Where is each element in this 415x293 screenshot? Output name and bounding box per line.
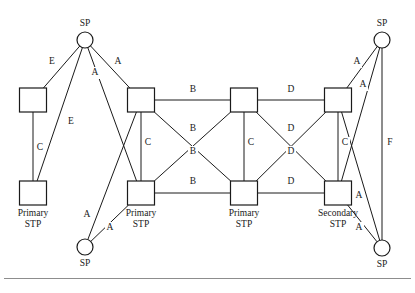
node-label-stp_a_bot: Primary bbox=[126, 208, 157, 218]
link-label-l_e2: E bbox=[68, 116, 74, 126]
node-label-sp_top_right: SP bbox=[377, 18, 388, 28]
network-diagram: EECAAAABBBBCCCDDDDAAAAF SPSPSPSPPrimaryS… bbox=[0, 0, 415, 293]
link-e-l_e2 bbox=[37, 48, 82, 181]
node-label-stp_c_bot: Secondary bbox=[318, 208, 358, 218]
link-label-l_b2: B bbox=[190, 123, 196, 133]
link-label-l_a6: A bbox=[360, 79, 367, 89]
link-label-l_f: F bbox=[387, 137, 392, 147]
sp-node-sp_top_right[interactable] bbox=[374, 32, 390, 48]
node-label-stp_b_bot: STP bbox=[236, 219, 252, 229]
stp-node-stp_b_bot[interactable] bbox=[231, 181, 258, 205]
link-label-l_a7: A bbox=[356, 190, 363, 200]
sp-node-sp_bottom_left[interactable] bbox=[77, 239, 93, 255]
link-label-l_a5: A bbox=[354, 56, 361, 66]
stp-node-stp_a_bot[interactable] bbox=[128, 181, 155, 205]
link-label-l_a4: A bbox=[107, 222, 114, 232]
sp-node-sp_bottom_right[interactable] bbox=[374, 240, 390, 256]
link-label-l_cc: C bbox=[342, 137, 348, 147]
node-label-sp_bottom_left: SP bbox=[80, 258, 91, 268]
stp-node-stp_b_top[interactable] bbox=[231, 88, 258, 112]
node-labels-layer: SPSPSPSPPrimarySTPPrimarySTPPrimarySTPSe… bbox=[18, 18, 388, 269]
link-label-l_d3: D bbox=[288, 146, 295, 156]
link-label-l_a2: A bbox=[92, 67, 99, 77]
link-label-l_ca: C bbox=[145, 137, 151, 147]
link-label-l_c0: C bbox=[37, 142, 43, 152]
link-label-l_a1: A bbox=[115, 56, 122, 66]
node-label-stp_b_bot: Primary bbox=[229, 208, 260, 218]
stp-node-stp_a_top[interactable] bbox=[128, 88, 155, 112]
network-diagram-canvas: EECAAAABBBBCCCDDDDAAAAF SPSPSPSPPrimaryS… bbox=[0, 0, 415, 293]
node-label-sp_top_left: SP bbox=[80, 18, 91, 28]
stp-node-stp_far_left_bot[interactable] bbox=[20, 181, 47, 205]
link-label-l_cb: C bbox=[248, 137, 254, 147]
link-label-l_a8: A bbox=[356, 222, 363, 232]
link-label-l_d2: D bbox=[288, 123, 295, 133]
link-label-l_a3: A bbox=[84, 209, 91, 219]
stp-node-stp_c_bot[interactable] bbox=[325, 181, 352, 205]
node-label-stp_far_left_bot: STP bbox=[25, 219, 41, 229]
stp-node-stp_far_left_top[interactable] bbox=[20, 88, 47, 112]
link-label-l_b4: B bbox=[190, 176, 196, 186]
link-label-l_e1: E bbox=[49, 56, 55, 66]
sp-node-sp_top_left[interactable] bbox=[77, 32, 93, 48]
stp-node-stp_c_top[interactable] bbox=[325, 88, 352, 112]
link-label-l_b1: B bbox=[190, 84, 196, 94]
node-label-sp_bottom_right: SP bbox=[377, 259, 388, 269]
node-label-stp_a_bot: STP bbox=[133, 219, 149, 229]
link-label-l_d1: D bbox=[288, 84, 295, 94]
node-label-stp_c_bot: STP bbox=[330, 219, 346, 229]
page-divider-rule bbox=[4, 278, 411, 279]
link-label-l_d4: D bbox=[288, 176, 295, 186]
link-label-l_b3: B bbox=[190, 146, 196, 156]
node-label-stp_far_left_bot: Primary bbox=[18, 208, 49, 218]
